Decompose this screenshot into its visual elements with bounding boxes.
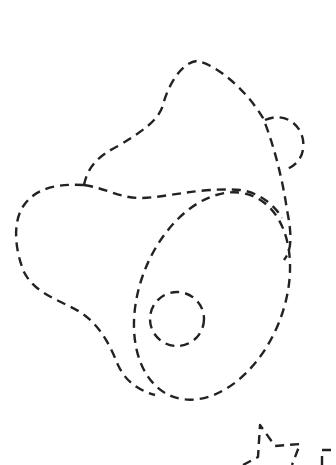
cut-face-ellipse	[105, 169, 319, 423]
main-body-outline	[16, 185, 155, 395]
small-bump-right	[265, 117, 303, 170]
ham-outline-drawing	[0, 0, 336, 465]
partial-shape-bottom-right-edge	[322, 450, 336, 465]
upper-meat-lobe	[84, 61, 290, 260]
partial-shape-bottom-right	[243, 425, 300, 465]
bone-circle	[150, 292, 204, 346]
